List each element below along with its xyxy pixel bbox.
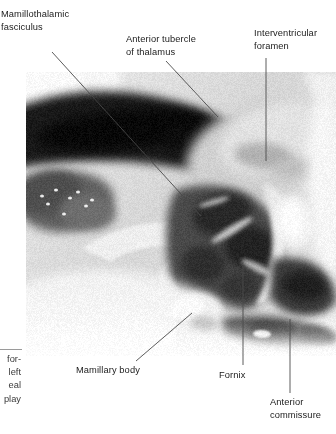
caption-line-1: for- — [0, 353, 21, 366]
caption-rule — [0, 349, 22, 350]
label-anterior-commissure: Anterior commissure — [270, 396, 321, 421]
label-anterior-tubercle-of-thalamus: Anterior tubercle of thalamus — [126, 33, 196, 58]
label-fornix: Fornix — [219, 369, 245, 382]
label-mamillary-body: Mamillary body — [76, 364, 140, 377]
caption-line-3: eal — [0, 379, 21, 392]
caption-line-2: left — [0, 366, 21, 379]
caption-line-4: play — [0, 393, 21, 406]
label-mamillothalamic-fasciculus: Mamillothalamic fasciculus — [1, 8, 69, 33]
caption-fragment: for- left eal play — [0, 349, 22, 407]
label-interventricular-foramen: Interventricular foramen — [254, 27, 317, 52]
anatomy-figure: Mamillothalamic fasciculus Anterior tube… — [0, 0, 336, 434]
photograph-canvas — [26, 72, 336, 356]
brain-section-photograph — [26, 72, 336, 356]
